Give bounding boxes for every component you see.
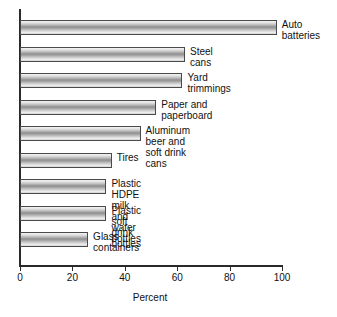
plot-area: Auto batteriesSteel cansYard trimmingsPa… [0,0,337,317]
x-axis-tick-mark [20,266,21,271]
bar-label: Tires [117,152,139,163]
bar [20,232,88,247]
bar [20,47,185,62]
x-axis-line [19,265,283,267]
x-axis-tick-label: 0 [17,272,23,283]
bar [20,126,141,141]
bar-chart-figure: Auto batteriesSteel cansYard trimmingsPa… [0,0,337,317]
bar [20,206,106,221]
x-axis-tick-label: 80 [224,272,235,283]
bar-label: Paper and paperboard [161,99,212,121]
x-axis-tick-mark [230,266,231,271]
bar-label: Auto batteries [282,19,320,41]
x-axis-title: Percent [0,292,300,303]
bar [20,100,156,115]
x-axis-tick-label: 60 [172,272,183,283]
bar [20,153,112,168]
bar-label: Aluminum beer and soft drink cans [146,125,190,169]
x-axis-tick-label: 40 [119,272,130,283]
bar-label: Steel cans [190,46,213,68]
x-axis-tick-mark [177,266,178,271]
bar [20,179,106,194]
bar-label: Yard trimmings [187,72,230,94]
x-axis-tick-mark [282,266,283,271]
x-axis-tick-label: 20 [67,272,78,283]
x-axis-tick-mark [125,266,126,271]
x-axis-tick-label: 100 [274,272,291,283]
x-axis-tick-mark [72,266,73,271]
bar [20,73,182,88]
bar [20,20,277,35]
bar-label: Glass containers [93,231,139,253]
